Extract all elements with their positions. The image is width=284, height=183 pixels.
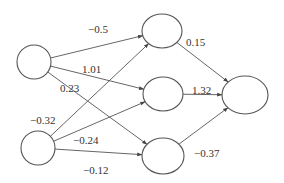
weight-label-h3-out: −0.37	[194, 147, 220, 159]
neural-network-diagram: −0.51.010.23−0.32−0.24−0.120.151.32−0.37	[0, 0, 284, 183]
weight-label-in2-h2: −0.24	[73, 134, 99, 146]
input-node-in2	[21, 131, 55, 165]
hidden-node-h2	[143, 77, 183, 111]
weight-label-in2-h1: −0.32	[30, 114, 55, 126]
weight-label-in1-h1: −0.5	[88, 23, 108, 35]
hidden-node-h3	[142, 138, 184, 174]
weight-label-in1-h2: 1.01	[82, 63, 101, 75]
weight-label-h1-out: 0.15	[186, 36, 206, 48]
edge-h1-out	[177, 42, 228, 82]
weight-label-in1-h3: 0.23	[60, 82, 80, 94]
weight-label-in2-h3: −0.12	[83, 164, 108, 176]
edge-h3-out	[179, 108, 228, 144]
hidden-node-h1	[142, 14, 182, 48]
input-node-in1	[17, 45, 51, 79]
output-node-out	[222, 76, 268, 114]
edge-in2-h3	[55, 149, 142, 155]
weight-label-h2-out: 1.32	[192, 84, 211, 96]
weight-labels-layer: −0.51.010.23−0.32−0.24−0.120.151.32−0.37	[30, 23, 220, 176]
nodes-layer	[17, 14, 268, 174]
edge-in1-h1	[51, 36, 143, 58]
edge-in2-h2	[54, 102, 146, 142]
